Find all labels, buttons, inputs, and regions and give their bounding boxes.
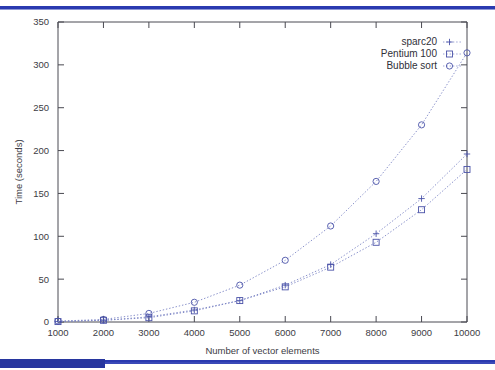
top-decorative-rule-thin: [0, 9, 495, 10]
y-axis-tick-label: 50: [38, 274, 49, 285]
data-point-marker: [373, 178, 379, 184]
y-axis-tick-label: 100: [33, 231, 49, 242]
data-point-marker: [328, 223, 334, 229]
data-point-marker: [373, 231, 379, 237]
y-axis-title: Time (seconds): [13, 139, 24, 204]
series-line: [58, 169, 467, 321]
slide-frame: 0501001502002503003501000200030004000500…: [0, 0, 495, 370]
y-axis-tick-label: 150: [33, 188, 49, 199]
x-axis-tick-label: 5000: [229, 327, 250, 338]
data-point-marker: [373, 239, 379, 245]
x-axis-tick-label: 9000: [411, 327, 432, 338]
data-point-marker: [191, 299, 197, 305]
series-bubble-sort: [55, 50, 470, 324]
bottom-decorative-rule-thin: [105, 362, 495, 364]
x-axis-title: Number of vector elements: [205, 345, 319, 356]
data-point-marker: [446, 39, 452, 45]
x-axis-tick-label: 8000: [366, 327, 387, 338]
x-axis-tick-label: 7000: [320, 327, 341, 338]
x-axis-tick-label: 2000: [93, 327, 114, 338]
data-point-marker: [418, 122, 424, 128]
bottom-decorative-tab: [0, 359, 105, 368]
chart-series: [55, 50, 470, 325]
data-point-marker: [464, 151, 470, 157]
y-axis-tick-label: 300: [33, 59, 49, 70]
y-axis-tick-label: 0: [44, 316, 49, 327]
y-axis-tick-label: 200: [33, 145, 49, 156]
x-axis-tick-label: 6000: [275, 327, 296, 338]
series-line: [58, 154, 467, 322]
x-axis-tick-label: 10000: [454, 327, 480, 338]
data-point-marker: [237, 297, 243, 303]
legend-label-sparc20: sparc20: [401, 36, 437, 47]
series-line: [58, 53, 467, 321]
y-axis-tick-label: 250: [33, 102, 49, 113]
series-pentium-100: [55, 166, 470, 324]
chart-legend: sparc20Pentium 100Bubble sort: [381, 36, 462, 71]
legend-label-pentium-100: Pentium 100: [381, 48, 438, 59]
data-point-marker: [237, 282, 243, 288]
x-axis-tick-label: 1000: [47, 327, 68, 338]
legend-label-bubble-sort: Bubble sort: [386, 60, 437, 71]
x-axis-tick-label: 4000: [184, 327, 205, 338]
series-sparc20: [55, 151, 470, 325]
x-axis-tick-label: 3000: [138, 327, 159, 338]
chart-plot-area: 0501001502002503003501000200030004000500…: [0, 12, 495, 357]
y-axis-tick-label: 350: [33, 16, 49, 27]
line-chart: 0501001502002503003501000200030004000500…: [0, 12, 495, 357]
data-point-marker: [419, 207, 425, 213]
chart-axis-titles: Number of vector elementsTime (seconds): [13, 139, 320, 356]
